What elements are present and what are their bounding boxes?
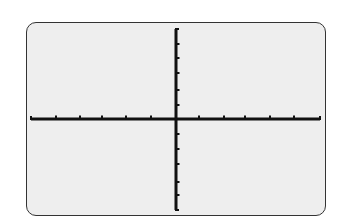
coordinate-axes	[0, 0, 344, 223]
